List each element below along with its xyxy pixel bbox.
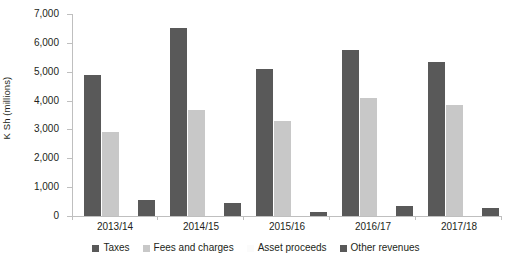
x-tick-label: 2014/15	[158, 222, 244, 232]
x-tick-mark	[329, 216, 330, 220]
x-tick-mark	[157, 216, 158, 220]
y-tick-label: 4,000	[34, 96, 59, 106]
y-tick-label: 1,000	[34, 182, 59, 192]
bar-other-revenues	[310, 212, 327, 216]
bar-taxes	[342, 50, 359, 216]
bar-group: 2014/15	[158, 14, 244, 216]
x-tick-label: 2017/18	[416, 222, 502, 232]
bar-taxes	[84, 75, 101, 216]
bar-chart: K Sh (millions) 01,0002,0003,0004,0005,0…	[0, 0, 512, 262]
legend-swatch-icon	[143, 245, 150, 252]
legend-label: Other revenues	[351, 243, 420, 253]
x-tick-mark	[243, 216, 244, 220]
bar-other-revenues	[224, 203, 241, 216]
y-axis-title: K Sh (millions)	[0, 0, 14, 216]
y-tick-label: 2,000	[34, 153, 59, 163]
x-tick-mark	[501, 216, 502, 220]
bar-group: 2016/17	[330, 14, 416, 216]
legend-item-taxes[interactable]: Taxes	[92, 243, 129, 253]
bar-taxes	[256, 69, 273, 216]
x-axis-line	[72, 216, 502, 217]
bar-other-revenues	[138, 200, 155, 216]
bar-group: 2013/14	[72, 14, 158, 216]
x-tick-mark-origin	[72, 216, 73, 220]
legend-swatch-icon	[92, 245, 99, 252]
legend-swatch-icon	[340, 245, 347, 252]
plot-area: 01,0002,0003,0004,0005,0006,0007,000 201…	[72, 14, 502, 216]
legend-label: Fees and charges	[154, 243, 234, 253]
y-tick-label: 5,000	[34, 67, 59, 77]
legend-swatch-icon	[247, 245, 254, 252]
bar-taxes	[170, 28, 187, 216]
bar-fees-and-charges	[102, 132, 119, 216]
chart-legend: TaxesFees and chargesAsset proceedsOther…	[0, 240, 512, 256]
x-tick-label: 2016/17	[330, 222, 416, 232]
bar-group: 2017/18	[416, 14, 502, 216]
bar-fees-and-charges	[360, 98, 377, 216]
bar-taxes	[428, 62, 445, 216]
legend-item-other-revenues[interactable]: Other revenues	[340, 243, 420, 253]
bar-fees-and-charges	[188, 110, 205, 216]
legend-item-asset-proceeds[interactable]: Asset proceeds	[247, 243, 327, 253]
bar-fees-and-charges	[446, 105, 463, 216]
legend-label: Asset proceeds	[258, 243, 327, 253]
y-tick-label: 7,000	[34, 9, 59, 19]
bar-group: 2015/16	[244, 14, 330, 216]
legend-item-fees-and-charges[interactable]: Fees and charges	[143, 243, 234, 253]
bar-fees-and-charges	[274, 121, 291, 216]
x-tick-label: 2015/16	[244, 222, 330, 232]
bar-other-revenues	[396, 206, 413, 216]
y-tick-label: 3,000	[34, 124, 59, 134]
bar-other-revenues	[482, 208, 499, 216]
x-tick-mark	[415, 216, 416, 220]
x-tick-label: 2013/14	[72, 222, 158, 232]
y-tick-label: 6,000	[34, 38, 59, 48]
y-tick-label: 0	[53, 211, 59, 221]
legend-label: Taxes	[103, 243, 129, 253]
